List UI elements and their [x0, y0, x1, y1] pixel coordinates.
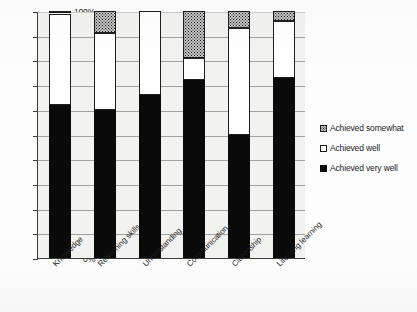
bar-segment-achieved-somewhat[interactable]	[94, 11, 116, 33]
bar-slot[interactable]	[49, 12, 71, 258]
chart-figure: 100%90%80%70%60%50%40%30%20%10%0% Knowle…	[0, 0, 417, 312]
bar-segment-achieved-very-well[interactable]	[94, 110, 116, 258]
gridline	[38, 12, 305, 13]
bar-segment-achieved-very-well[interactable]	[139, 95, 161, 258]
bar-segment-achieved-well[interactable]	[49, 14, 71, 105]
gridline	[38, 61, 305, 62]
gridline	[38, 136, 305, 137]
gridline	[38, 185, 305, 186]
y-axis-tick	[33, 37, 38, 38]
stacked-bar[interactable]	[139, 12, 161, 258]
gridline	[38, 160, 305, 161]
bar-segment-achieved-very-well[interactable]	[183, 80, 205, 258]
bar-segment-achieved-well[interactable]	[228, 28, 250, 134]
y-axis-tick	[33, 136, 38, 137]
bar-segment-achieved-well[interactable]	[94, 33, 116, 110]
bar-segment-achieved-very-well[interactable]	[228, 135, 250, 259]
legend-label: Achieved well	[330, 143, 380, 153]
y-axis-tick	[33, 61, 38, 62]
chart-legend: Achieved somewhatAchieved wellAchieved v…	[320, 120, 417, 180]
gridline	[38, 86, 305, 87]
legend-label: Achieved very well	[330, 163, 398, 173]
bar-segment-achieved-somewhat[interactable]	[183, 11, 205, 58]
y-axis-tick	[33, 234, 38, 235]
stacked-bar[interactable]	[49, 12, 71, 258]
bar-slot[interactable]	[228, 12, 250, 258]
bar-segment-achieved-very-well[interactable]	[273, 78, 295, 258]
stacked-bar[interactable]	[273, 12, 295, 258]
y-axis-tick	[33, 12, 38, 13]
bar-slot[interactable]	[183, 12, 205, 258]
bar-slot[interactable]	[139, 12, 161, 258]
black-square-swatch-icon	[320, 165, 327, 172]
bar-segment-achieved-somewhat[interactable]	[49, 11, 71, 13]
stacked-bar[interactable]	[94, 12, 116, 258]
y-axis-tick	[33, 86, 38, 87]
stippled-square-swatch-icon	[320, 125, 327, 132]
bar-segment-achieved-well[interactable]	[139, 11, 161, 95]
y-axis-tick	[33, 160, 38, 161]
legend-item[interactable]: Achieved very well	[320, 160, 417, 176]
legend-item[interactable]: Achieved well	[320, 140, 417, 156]
bar-segment-achieved-well[interactable]	[273, 21, 295, 78]
stacked-bar[interactable]	[228, 12, 250, 258]
plot-area	[37, 12, 305, 259]
legend-item[interactable]: Achieved somewhat	[320, 120, 417, 136]
gridline	[38, 37, 305, 38]
stacked-bar[interactable]	[183, 12, 205, 258]
y-axis-tick	[33, 210, 38, 211]
bar-segment-achieved-very-well[interactable]	[49, 105, 71, 258]
y-axis-tick	[33, 259, 38, 260]
bar-slot[interactable]	[273, 12, 295, 258]
bar-segment-achieved-well[interactable]	[183, 58, 205, 80]
white-square-swatch-icon	[320, 145, 327, 152]
legend-label: Achieved somewhat	[330, 123, 404, 133]
bar-segment-achieved-somewhat[interactable]	[228, 11, 250, 28]
bar-segment-achieved-somewhat[interactable]	[273, 11, 295, 21]
gridline	[38, 111, 305, 112]
bar-slot[interactable]	[94, 12, 116, 258]
y-axis-tick	[33, 111, 38, 112]
y-axis-tick	[33, 185, 38, 186]
gridline	[38, 210, 305, 211]
